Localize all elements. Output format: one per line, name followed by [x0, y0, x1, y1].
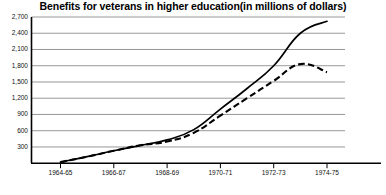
y-axis-tick-label: 1,800 — [0, 62, 28, 69]
x-axis-tick-label: 1970-71 — [198, 169, 242, 176]
y-axis-tick-label: 900 — [0, 110, 28, 117]
x-axis-tick-label: 1974-75 — [305, 169, 349, 176]
y-axis-tick-label: 2,700 — [0, 13, 28, 20]
y-axis-tick-label: 300 — [0, 143, 28, 150]
y-axis-tick-label: 600 — [0, 127, 28, 134]
line-chart-plot — [0, 0, 386, 195]
y-axis-tick-label: 1,200 — [0, 94, 28, 101]
x-axis-tick-label: 1964-65 — [39, 169, 83, 176]
x-axis-tick-label: 1966-67 — [92, 169, 136, 176]
y-axis-tick-label: 2,100 — [0, 45, 28, 52]
data-line-solid — [61, 21, 328, 162]
y-axis-tick-label: 1,500 — [0, 78, 28, 85]
x-axis-tick-label: 1968-69 — [145, 169, 189, 176]
x-axis-tick-label: 1972-73 — [252, 169, 296, 176]
chart-page: Benefits for veterans in higher educatio… — [0, 0, 386, 195]
y-axis-tick-label: 2,400 — [0, 29, 28, 36]
